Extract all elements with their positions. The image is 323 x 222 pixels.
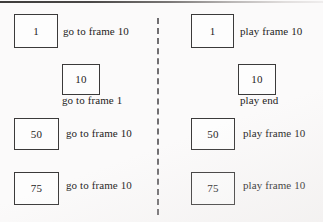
frame-box[interactable]: 50 [191, 118, 235, 150]
frame-box[interactable]: 75 [14, 172, 59, 205]
column-divider [157, 18, 159, 215]
figure-canvas: 1 go to frame 10 10 go to frame 1 50 go … [0, 0, 323, 222]
action-label: go to frame 1 [62, 94, 122, 106]
action-label: play frame 10 [243, 127, 305, 139]
frame-box[interactable]: 1 [191, 14, 234, 48]
action-label: play frame 10 [243, 179, 305, 191]
frame-box[interactable]: 10 [62, 64, 100, 95]
frame-box[interactable]: 10 [238, 64, 276, 95]
action-label: go to frame 10 [66, 127, 132, 139]
action-label: play frame 10 [240, 25, 302, 37]
frame-box[interactable]: 1 [14, 14, 58, 48]
frame-box[interactable]: 75 [191, 172, 235, 205]
scan-artifact-line [0, 1, 323, 3]
action-label: go to frame 10 [63, 25, 129, 37]
action-label: play end [240, 94, 278, 106]
action-label: go to frame 10 [66, 179, 132, 191]
frame-box[interactable]: 50 [14, 118, 59, 150]
